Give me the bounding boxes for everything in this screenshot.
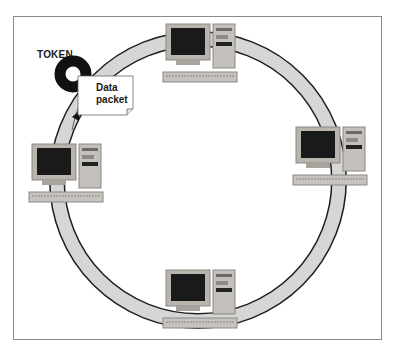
data-packet-label-line1: Data [96,82,136,94]
data-packet-label-line2: packet [96,94,136,106]
token-label: TOKEN [37,49,73,60]
data-packet-label: Data packet [96,82,136,106]
